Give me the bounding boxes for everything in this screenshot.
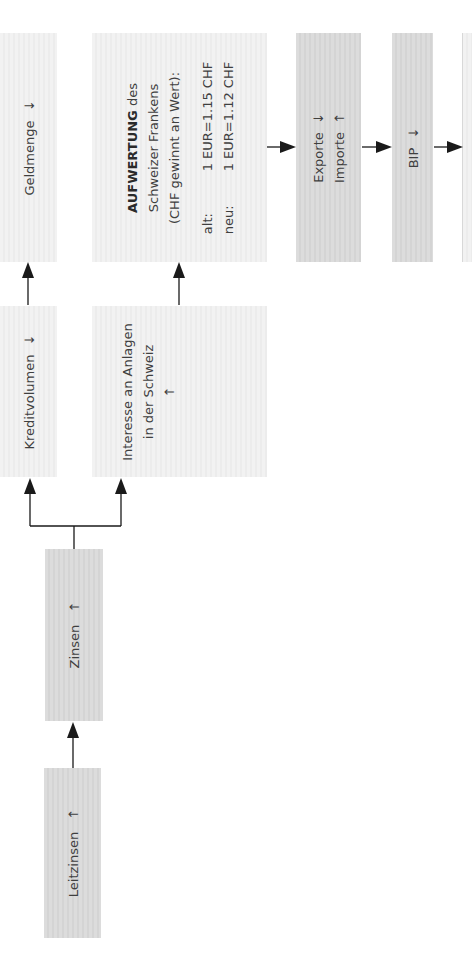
node-exporte-importe-text: Exporte ↓ Importe ↑ (308, 112, 350, 182)
trend-up-icon: ↑ (158, 323, 179, 460)
bip-label: BIP (405, 147, 420, 168)
interesse-line2: in der Schweiz (137, 323, 158, 460)
aufwertung-title: AUFWERTUNG des (121, 61, 142, 233)
trend-up-icon: ↑ (67, 602, 82, 613)
node-bip-text: BIP ↓ (402, 127, 423, 168)
arrowhead-up-icon (22, 262, 34, 278)
node-bip: BIP ↓ (392, 33, 433, 262)
node-aufwertung-text: AUFWERTUNG des Schweizer Frankens (CHF g… (121, 61, 238, 233)
arrowhead-up-icon (115, 478, 127, 494)
leitzinsen-label: Leitzinsen (65, 832, 80, 897)
node-leitzinsen-text: Leitzinsen ↑ (62, 809, 83, 897)
arrowhead-right-icon (376, 141, 392, 153)
arrowhead-right-icon (447, 141, 463, 153)
node-exporte-importe: Exporte ↓ Importe ↑ (296, 33, 361, 262)
rate-new-value: 1 EUR=1.12 CHF (217, 61, 238, 170)
exporte-label: Exporte (311, 132, 326, 183)
trend-down-icon: ↓ (21, 334, 36, 345)
arrowhead-up-icon (173, 262, 185, 278)
geldmenge-label: Geldmenge (21, 120, 36, 195)
node-zinsen: Zinsen ↑ (45, 549, 103, 721)
arrowhead-up-icon (24, 478, 36, 494)
aufwertung-line2: Schweizer Frankens (142, 61, 163, 233)
node-leitzinsen: Leitzinsen ↑ (44, 768, 101, 938)
node-interesse-text: Interesse an Anlagen in der Schweiz ↑ (116, 323, 179, 460)
node-aufwertung: AUFWERTUNG des Schweizer Frankens (CHF g… (92, 33, 267, 262)
importe-label: Importe (332, 131, 347, 182)
rate-old-label: alt: (196, 205, 217, 234)
trend-down-icon: ↓ (21, 100, 36, 111)
exporte-line: Exporte ↓ (308, 112, 329, 182)
trend-up-icon: ↑ (332, 112, 347, 123)
node-cut-off (462, 33, 472, 262)
trend-up-icon: ↑ (65, 809, 80, 820)
zinsen-label: Zinsen (67, 625, 82, 669)
node-kreditvolumen: Kreditvolumen ↓ (0, 306, 57, 477)
node-kreditvolumen-text: Kreditvolumen ↓ (18, 334, 39, 449)
arrowhead-up-icon (67, 722, 79, 738)
exchange-rate-table: alt: 1 EUR=1.15 CHF neu: 1 EUR=1.12 CHF (196, 61, 238, 233)
node-zinsen-text: Zinsen ↑ (64, 602, 85, 669)
trend-down-icon: ↓ (311, 113, 326, 124)
aufwertung-line3: (CHF gewinnt an Wert): (163, 61, 184, 233)
arrowhead-right-icon (280, 141, 296, 153)
rate-new-label: neu: (217, 205, 238, 234)
importe-line: Importe ↑ (329, 112, 350, 182)
aufwertung-title-rest: des (124, 83, 139, 110)
kreditvolumen-label: Kreditvolumen (21, 354, 36, 449)
trend-down-icon: ↓ (405, 127, 420, 138)
node-geldmenge: Geldmenge ↓ (0, 33, 57, 262)
node-interesse-anlagen: Interesse an Anlagen in der Schweiz ↑ (92, 306, 267, 477)
interesse-line1: Interesse an Anlagen (116, 323, 137, 460)
rate-old-value: 1 EUR=1.15 CHF (196, 61, 217, 170)
node-geldmenge-text: Geldmenge ↓ (18, 100, 39, 195)
aufwertung-title-bold: AUFWERTUNG (124, 110, 139, 213)
